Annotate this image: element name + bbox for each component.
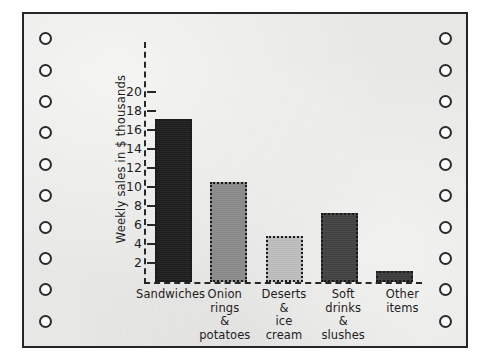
y-axis-tick-label: 2 [134,256,142,269]
x-axis-category-label: Sandwiches [136,288,195,302]
bar-slot [266,24,303,282]
category-label-line: & [195,315,254,329]
y-axis-tick-label: 18 [126,104,142,117]
sprocket-hole [39,315,52,328]
category-label-line: cream [254,329,313,343]
x-axis-category-label: Otheritems [373,288,432,315]
category-label-line: Onion [195,288,254,302]
sprocket-hole [439,221,452,234]
category-label-line: Deserts [254,288,313,302]
category-label-line: Other [373,288,432,302]
sprocket-hole [39,95,52,108]
y-axis-tick-label: 14 [126,142,142,155]
category-label-line: items [373,302,432,316]
bar-slot [210,24,247,282]
category-label-line: & [314,315,373,329]
y-axis-tick-label: 20 [126,85,142,98]
sprocket-hole [439,64,452,77]
y-axis-tick-label: 6 [134,218,142,231]
y-axis-tick-label: 12 [126,161,142,174]
bar[interactable] [321,213,358,282]
bar-slot [321,24,358,282]
category-label-line: potatoes [195,329,254,343]
sprocket-hole [39,64,52,77]
y-axis-tick-label: 16 [126,123,142,136]
x-axis-baseline [144,282,422,284]
category-label-line: drinks [314,302,373,316]
sprocket-hole [39,221,52,234]
bar[interactable] [155,119,192,282]
sprocket-hole [439,283,452,296]
sprocket-hole [39,32,52,45]
sprocket-hole [39,252,52,265]
sprocket-hole [39,283,52,296]
bar[interactable] [376,271,413,282]
sprocket-hole [439,32,452,45]
category-label-line: slushes [314,329,373,343]
x-axis-category-label: Deserts&icecream [254,288,313,342]
y-axis-tick-label: 4 [134,237,142,250]
sprocket-hole [39,189,52,202]
x-axis-category-labels: SandwichesOnionrings&potatoesDeserts&ice… [136,288,432,340]
bar-series [146,24,422,282]
sprocket-holes-right [428,14,462,346]
category-label-line: rings [195,302,254,316]
bar-slot [155,24,192,282]
sprocket-holes-left [28,14,62,346]
category-label-line: Soft [314,288,373,302]
sprocket-hole [439,158,452,171]
sprocket-hole [439,315,452,328]
category-label-line: Sandwiches [136,288,195,302]
printout-paper: Weekly sales in $ thousands 246810121416… [22,12,468,348]
bar[interactable] [266,236,303,282]
sprocket-hole [439,252,452,265]
bar[interactable] [210,182,247,282]
bar-chart: Weekly sales in $ thousands 246810121416… [70,24,426,340]
x-axis-category-label: Onionrings&potatoes [195,288,254,342]
bar-slot [376,24,413,282]
sprocket-hole [439,95,452,108]
category-label-line: & [254,302,313,316]
sprocket-hole [39,158,52,171]
y-axis-tick-label: 10 [126,180,142,193]
x-axis-category-label: Softdrinks&slushes [314,288,373,342]
sprocket-hole [439,126,452,139]
y-axis-tick-label: 8 [134,199,142,212]
sprocket-hole [439,189,452,202]
category-label-line: ice [254,315,313,329]
sprocket-hole [39,126,52,139]
